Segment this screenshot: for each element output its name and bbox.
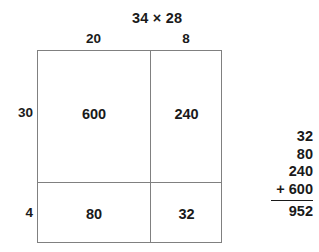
area-model-grid: 600 240 80 32 bbox=[37, 50, 222, 243]
grid-cell-32: 32 bbox=[151, 207, 222, 222]
addend-600-with-plus: + 600 bbox=[262, 181, 316, 199]
addend-240: 240 bbox=[262, 163, 316, 181]
addend-32: 32 bbox=[262, 128, 316, 146]
area-model-worksheet: 34 × 28 20 8 30 4 600 240 80 32 32 80 24… bbox=[0, 0, 319, 252]
grid-cell-240: 240 bbox=[151, 107, 222, 122]
addition-total-952: 952 bbox=[262, 203, 316, 221]
grid-cell-80: 80 bbox=[38, 207, 150, 222]
row-header-4: 4 bbox=[0, 206, 33, 220]
column-header-8: 8 bbox=[150, 32, 222, 46]
row-header-30: 30 bbox=[0, 106, 33, 120]
problem-title: 34 × 28 bbox=[132, 11, 182, 26]
addition-rule-line bbox=[271, 200, 313, 202]
grid-horizontal-divider bbox=[38, 182, 221, 183]
column-header-20: 20 bbox=[37, 32, 150, 46]
partial-products-addition: 32 80 240 + 600 952 bbox=[262, 128, 316, 220]
grid-cell-600: 600 bbox=[38, 107, 150, 122]
addend-80: 80 bbox=[262, 146, 316, 164]
